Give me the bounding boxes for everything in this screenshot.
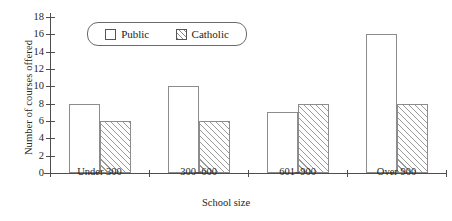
y-tick-mark <box>46 52 55 53</box>
bar-catholic-2 <box>298 104 329 173</box>
y-tick-label: 8 <box>24 99 44 109</box>
y-axis-line <box>50 13 51 173</box>
y-tick-label: 10 <box>24 81 44 91</box>
bar-chart: Number of courses offered 02468101214161… <box>0 0 452 221</box>
x-tick-mark <box>446 170 447 177</box>
x-category-label: 300–600 <box>149 166 248 177</box>
legend-label-catholic: Catholic <box>192 28 229 40</box>
x-category-label: Under 300 <box>50 166 149 177</box>
legend-swatch-catholic-icon <box>176 29 187 40</box>
legend-label-public: Public <box>121 28 149 40</box>
y-tick-mark <box>46 34 55 35</box>
bar-public-1 <box>168 86 199 173</box>
y-tick-mark <box>46 121 55 122</box>
y-tick-label: 4 <box>24 133 44 143</box>
y-tick-label: 18 <box>24 12 44 22</box>
legend-swatch-public-icon <box>105 29 116 40</box>
legend-entry-public: Public <box>105 28 149 40</box>
y-tick-label: 14 <box>24 47 44 57</box>
y-tick-label: 16 <box>24 29 44 39</box>
y-tick-label: 2 <box>24 151 44 161</box>
bar-public-3 <box>366 34 397 173</box>
bar-public-0 <box>69 104 100 173</box>
y-tick-mark <box>46 156 55 157</box>
y-tick-label: 0 <box>24 168 44 178</box>
y-axis-tick-labels: 024681012141618 <box>24 0 44 221</box>
y-tick-mark <box>46 86 55 87</box>
x-category-label: Over 900 <box>347 166 446 177</box>
bar-public-2 <box>267 112 298 173</box>
y-tick-label: 6 <box>24 116 44 126</box>
x-axis-title: School size <box>0 197 452 208</box>
legend-entry-catholic: Catholic <box>176 28 229 40</box>
y-tick-label: 12 <box>24 64 44 74</box>
y-tick-mark <box>46 138 55 139</box>
chart-legend: Public Catholic <box>87 22 247 46</box>
y-tick-mark <box>46 69 55 70</box>
y-tick-mark <box>46 17 55 18</box>
x-category-label: 601–900 <box>248 166 347 177</box>
bar-catholic-3 <box>397 104 428 173</box>
y-tick-mark <box>46 104 55 105</box>
